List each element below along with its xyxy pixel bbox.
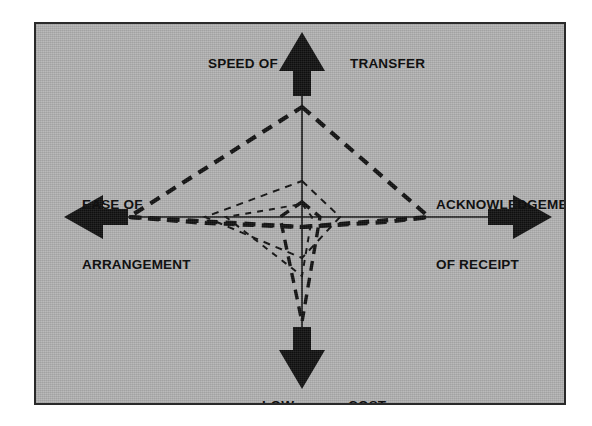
- radar-chart-canvas: [36, 24, 564, 403]
- figure-root: SPEED OF TRANSFER EASE OF ARRANGEMENT AC…: [0, 0, 592, 426]
- axis-label-acknowledgement: ACKNOWLEDGEMENT: [436, 198, 566, 212]
- down-arrow-icon: [279, 327, 325, 389]
- up-arrow-icon: [279, 32, 325, 96]
- chart-panel: SPEED OF TRANSFER EASE OF ARRANGEMENT AC…: [34, 22, 566, 405]
- axis-label-of-receipt: OF RECEIPT: [436, 258, 519, 272]
- axis-label-cost: COST: [348, 399, 386, 405]
- axis-label-transfer: TRANSFER: [350, 57, 425, 71]
- axis-label-speed-of: SPEED OF: [208, 57, 278, 71]
- axis-label-ease-of: EASE OF: [82, 198, 143, 212]
- axis-label-arrangement: ARRANGEMENT: [82, 258, 191, 272]
- axis-label-low: LOW: [262, 399, 294, 405]
- series-1-polygon: [129, 107, 429, 227]
- series-4-polygon: [226, 204, 312, 276]
- series-3-polygon: [280, 202, 320, 322]
